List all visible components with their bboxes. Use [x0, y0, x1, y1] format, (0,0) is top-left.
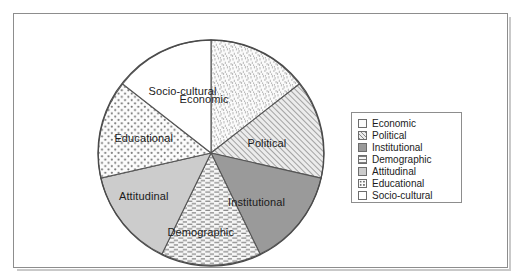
legend-swatch-demographic-icon [358, 155, 367, 164]
pie-label-demographic: Demographic [167, 226, 234, 238]
legend-item-socio-cultural[interactable]: Socio-cultural [358, 190, 461, 202]
legend-item-attitudinal[interactable]: Attitudinal [358, 166, 461, 178]
legend-label-political: Political [372, 130, 406, 141]
legend-item-institutional[interactable]: Institutional [358, 142, 461, 154]
legend-swatch-attitudinal-icon [358, 167, 367, 176]
legend-swatch-political-icon [358, 131, 367, 140]
legend-label-demographic: Demographic [372, 154, 431, 165]
legend-label-economic: Economic [372, 118, 416, 129]
figure-frame: Economic Political Institutional Demogra… [13, 13, 508, 268]
legend-swatch-educational-icon [358, 179, 367, 188]
pie-chart: Economic Political Institutional Demogra… [97, 39, 325, 267]
figure-canvas: Economic Political Institutional Demogra… [0, 0, 521, 279]
frame-shadow-bottom [17, 269, 511, 271]
legend-label-socio-cultural: Socio-cultural [372, 190, 433, 201]
legend-label-educational: Educational [372, 178, 424, 189]
legend-swatch-institutional-icon [358, 143, 367, 152]
pie-label-institutional: Institutional [228, 196, 285, 208]
legend-label-institutional: Institutional [372, 142, 423, 153]
legend-label-attitudinal: Attitudinal [372, 166, 416, 177]
pie-label-political: Political [247, 137, 286, 149]
legend-item-educational[interactable]: Educational [358, 178, 461, 190]
legend-item-demographic[interactable]: Demographic [358, 154, 461, 166]
chart-legend: Economic Political Institutional Demogra… [351, 112, 462, 203]
legend-item-economic[interactable]: Economic [358, 118, 461, 130]
pie-label-educational: Educational [114, 132, 173, 144]
legend-item-political[interactable]: Political [358, 130, 461, 142]
frame-shadow-right [509, 17, 511, 269]
pie-label-socio-cultural: Socio-cultural [148, 85, 216, 97]
legend-swatch-economic-icon [358, 119, 367, 128]
legend-swatch-socio-cultural-icon [358, 191, 367, 200]
pie-label-attitudinal: Attitudinal [119, 190, 168, 202]
